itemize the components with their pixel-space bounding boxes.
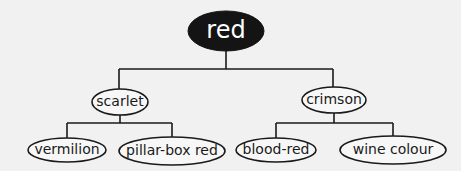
- node-crimson: crimson: [302, 87, 366, 113]
- node-pillar-box-red: pillar-box red: [119, 137, 225, 165]
- edges-root: [119, 50, 333, 89]
- node-blood-red-label: blood-red: [243, 141, 310, 157]
- node-vermilion: vermilion: [28, 138, 106, 162]
- node-scarlet-label: scarlet: [96, 93, 144, 109]
- edges-crimson: [276, 113, 393, 138]
- node-pillar-box-red-label: pillar-box red: [126, 142, 218, 158]
- node-root-label: red: [206, 16, 245, 44]
- node-scarlet: scarlet: [92, 89, 148, 115]
- node-root: red: [188, 11, 264, 51]
- node-vermilion-label: vermilion: [34, 141, 99, 157]
- node-crimson-label: crimson: [306, 91, 362, 107]
- node-wine-colour-label: wine colour: [353, 141, 434, 157]
- node-blood-red: blood-red: [236, 138, 316, 162]
- tree-diagram: red scarlet crimson vermilion pillar-box…: [0, 0, 461, 171]
- edges-scarlet: [67, 115, 172, 138]
- node-wine-colour: wine colour: [340, 136, 446, 164]
